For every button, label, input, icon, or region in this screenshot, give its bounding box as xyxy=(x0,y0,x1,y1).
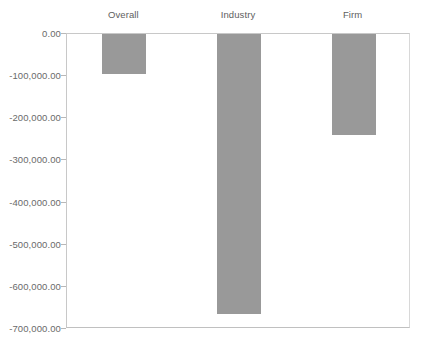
y-tick-label: -200,000.00 xyxy=(9,112,61,123)
category-label-industry: Industry xyxy=(188,9,288,20)
bar-chart: Overall Industry Firm 0.00 -100,000.00 -… xyxy=(0,0,427,358)
y-tick-mark xyxy=(61,328,66,329)
plot-area xyxy=(66,33,410,328)
bar-industry xyxy=(217,34,261,314)
y-tick-label: -400,000.00 xyxy=(9,196,61,207)
y-tick-label: -700,000.00 xyxy=(9,323,61,334)
category-label-overall: Overall xyxy=(73,9,173,20)
y-tick-label: -100,000.00 xyxy=(9,70,61,81)
y-tick-label: -600,000.00 xyxy=(9,280,61,291)
bar-firm xyxy=(332,34,376,135)
category-label-firm: Firm xyxy=(303,9,403,20)
y-tick-label: 0.00 xyxy=(42,28,61,39)
y-tick-label: -500,000.00 xyxy=(9,238,61,249)
bar-overall xyxy=(102,34,146,74)
y-tick-label: -300,000.00 xyxy=(9,154,61,165)
